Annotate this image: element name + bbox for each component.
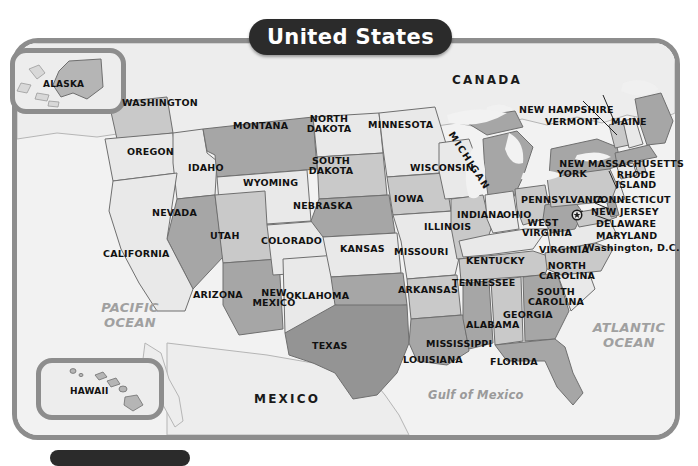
label-pacific-line1: PACIFIC — [88, 301, 172, 316]
label-california: CALIFORNIA — [103, 249, 170, 259]
label-arkansas: ARKANSAS — [398, 285, 458, 295]
label-iowa: IOWA — [394, 194, 424, 204]
label-georgia: GEORGIA — [503, 310, 553, 320]
label-tennessee: TENNESSEE — [452, 278, 515, 288]
bottom-tab-pill[interactable] — [50, 450, 190, 466]
label-virginia: VIRGINIA — [539, 245, 589, 255]
label-connecticut: CONNECTICUT — [593, 195, 671, 205]
label-massachusetts: MASSACHUSETTS — [588, 159, 684, 169]
label-florida: FLORIDA — [490, 357, 538, 367]
label-kansas: KANSAS — [340, 244, 385, 254]
label-north-dakota: NORTH DAKOTA — [303, 114, 355, 134]
inset-hawaii[interactable]: HAWAII — [36, 358, 164, 420]
label-nevada: NEVADA — [152, 208, 197, 218]
capital-marker-dc — [572, 210, 583, 221]
label-delaware: DELAWARE — [596, 219, 656, 229]
label-atlantic-line2: OCEAN — [583, 336, 675, 351]
label-washington: WASHINGTON — [122, 98, 198, 108]
label-pacific-ocean: PACIFIC OCEAN — [88, 301, 172, 330]
map-title-pill: United States — [249, 19, 452, 55]
label-new-hampshire: NEW HAMPSHIRE — [519, 105, 614, 115]
label-mississippi: MISSISSIPPI — [426, 339, 492, 349]
label-oregon: OREGON — [127, 147, 174, 157]
label-montana: MONTANA — [233, 121, 288, 131]
label-canada: CANADA — [452, 74, 522, 86]
state-kansas — [323, 233, 401, 277]
label-utah: UTAH — [210, 231, 240, 241]
inset-alaska[interactable]: ALASKA — [10, 48, 126, 114]
label-rhode-island: RHODE ISLAND — [613, 170, 659, 190]
label-gulf-of-mexico: Gulf of Mexico — [428, 390, 524, 402]
label-texas: TEXAS — [312, 341, 348, 351]
label-pennsylvania: PENNSYLVANIA — [521, 195, 604, 205]
label-idaho: IDAHO — [188, 163, 224, 173]
label-washington-dc: Washington, D.C. — [584, 243, 680, 253]
label-louisiana: LOUISIANA — [403, 355, 463, 365]
label-maryland: MARYLAND — [596, 231, 657, 241]
label-illinois: ILLINOIS — [424, 222, 471, 232]
label-pacific-line2: OCEAN — [88, 316, 172, 331]
label-north-carolina: NORTH CAROLINA — [538, 261, 596, 281]
label-kentucky: KENTUCKY — [466, 256, 525, 266]
label-arizona: ARIZONA — [193, 290, 243, 300]
label-west-virginia: WEST VIRGINIA — [522, 218, 564, 238]
label-mexico: MEXICO — [254, 393, 320, 405]
label-missouri: MISSOURI — [394, 247, 449, 257]
label-new-york: NEW YORK — [557, 159, 587, 179]
label-colorado: COLORADO — [261, 236, 322, 246]
label-minnesota: MINNESOTA — [368, 120, 433, 130]
label-maine: MAINE — [611, 117, 647, 127]
inset-label-hawaii: HAWAII — [70, 387, 108, 396]
label-south-dakota: SOUTH DAKOTA — [305, 156, 357, 176]
state-oregon — [105, 133, 177, 181]
label-indiana: INDIANA — [457, 210, 504, 220]
label-vermont: VERMONT — [545, 117, 600, 127]
inset-label-alaska: ALASKA — [43, 80, 84, 89]
label-nebraska: NEBRASKA — [293, 201, 353, 211]
page-title: United States — [267, 25, 434, 49]
label-atlantic-line1: ATLANTIC — [583, 321, 675, 336]
label-south-carolina: SOUTH CAROLINA — [527, 287, 585, 307]
label-atlantic-ocean: ATLANTIC OCEAN — [583, 321, 675, 350]
label-new-jersey: NEW JERSEY — [591, 207, 659, 217]
label-alabama: ALABAMA — [466, 320, 520, 330]
label-wyoming: WYOMING — [243, 178, 298, 188]
label-wisconsin: WISCONSIN — [410, 163, 474, 173]
label-oklahoma: OKLAHOMA — [286, 291, 349, 301]
